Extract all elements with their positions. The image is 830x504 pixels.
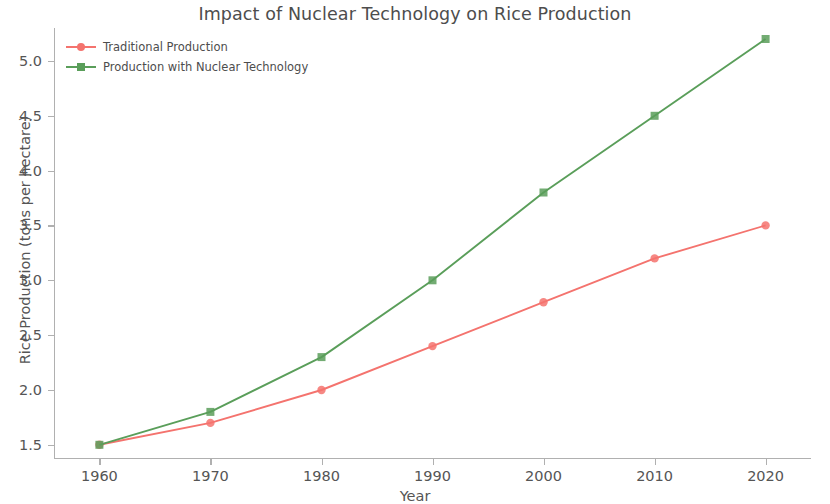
data-point: [539, 298, 547, 306]
legend-item-2[interactable]: Production with Nuclear Technology: [66, 58, 308, 76]
data-point: [206, 419, 214, 427]
data-point: [651, 112, 659, 120]
legend-swatch-icon: [66, 61, 96, 73]
data-point: [428, 342, 436, 350]
legend-item-1[interactable]: Traditional Production: [66, 38, 308, 56]
data-point: [206, 408, 214, 416]
data-point: [540, 189, 548, 197]
data-point: [762, 35, 770, 43]
legend-swatch-icon: [66, 41, 96, 53]
chart-legend: Traditional ProductionProduction with Nu…: [62, 36, 312, 80]
series-line: [99, 225, 765, 444]
legend-marker-circle-icon: [77, 43, 85, 51]
data-point: [95, 441, 103, 449]
data-point: [317, 386, 325, 394]
series-line: [99, 39, 765, 445]
legend-label: Production with Nuclear Technology: [103, 60, 308, 74]
data-point: [318, 353, 326, 361]
data-point: [761, 221, 769, 229]
legend-marker-square-icon: [77, 63, 85, 71]
data-point: [650, 254, 658, 262]
data-point: [429, 276, 437, 284]
series-2: [95, 35, 769, 449]
series-1: [95, 221, 770, 449]
legend-label: Traditional Production: [103, 40, 228, 54]
chart-figure: Impact of Nuclear Technology on Rice Pro…: [0, 0, 830, 504]
